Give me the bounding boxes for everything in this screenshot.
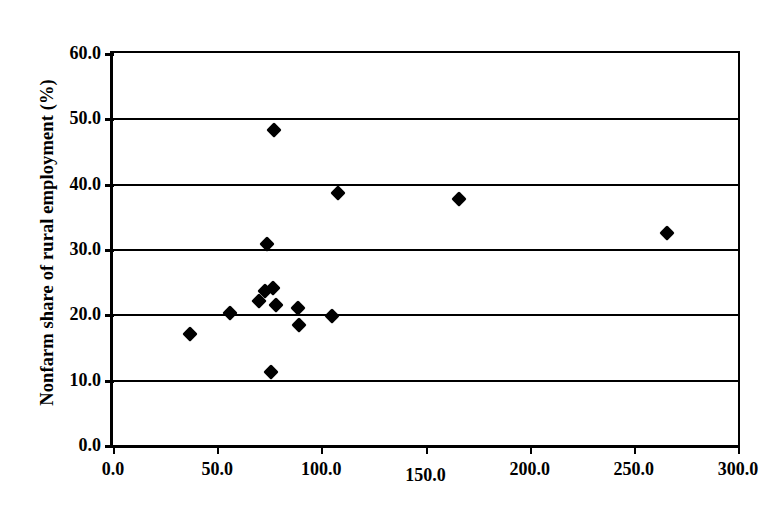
y-axis-tick-20.0 xyxy=(105,314,114,317)
y-axis-tick-60.0 xyxy=(105,53,114,56)
x-axis-tick-label: 0.0 xyxy=(102,459,125,480)
data-point xyxy=(267,122,283,138)
data-point xyxy=(324,308,340,324)
plot-area: 0.010.020.030.040.050.060.00.050.0100.01… xyxy=(110,51,740,448)
gridline-y-40 xyxy=(113,184,738,186)
data-point xyxy=(659,226,675,242)
x-axis-tick-250.0 xyxy=(634,445,636,454)
x-axis-tick-50.0 xyxy=(217,445,219,454)
scatter-chart-figure: Nonfarm share of rural employment (%) 0.… xyxy=(0,0,775,508)
y-axis-tick-label: 0.0 xyxy=(79,435,102,456)
y-axis-title: Nonfarm share of rural employment (%) xyxy=(37,28,58,458)
data-point xyxy=(182,326,198,342)
y-axis-tick-label: 10.0 xyxy=(70,369,102,390)
y-axis-tick-label: 60.0 xyxy=(70,43,102,64)
x-axis-tick-0.0 xyxy=(113,445,115,454)
x-axis-tick-300.0 xyxy=(738,445,740,454)
gridline-y-50 xyxy=(113,118,738,120)
x-axis-tick-100.0 xyxy=(321,445,323,454)
gridline-y-30 xyxy=(113,249,738,251)
x-axis-tick-label: 250.0 xyxy=(614,459,655,480)
y-axis-tick-10.0 xyxy=(105,380,114,383)
x-axis-tick-label: 300.0 xyxy=(718,459,759,480)
y-axis-tick-label: 30.0 xyxy=(70,239,102,260)
x-axis-tick-150.0 xyxy=(426,445,428,454)
x-axis-tick-label: 200.0 xyxy=(509,459,550,480)
y-axis-tick-label: 20.0 xyxy=(70,304,102,325)
y-axis-tick-30.0 xyxy=(105,249,114,252)
data-point xyxy=(451,191,467,207)
x-axis-tick-label: 150.0 xyxy=(405,465,446,486)
x-axis-tick-label: 100.0 xyxy=(301,459,342,480)
gridline-y-10 xyxy=(113,380,738,382)
x-axis-tick-200.0 xyxy=(530,445,532,454)
data-point xyxy=(330,185,346,201)
data-point xyxy=(268,297,284,313)
gridline-y-20 xyxy=(113,314,738,316)
y-axis-tick-label: 50.0 xyxy=(70,108,102,129)
data-point xyxy=(264,365,280,381)
data-point xyxy=(292,318,308,334)
data-point xyxy=(222,305,238,321)
x-axis-tick-label: 50.0 xyxy=(201,459,233,480)
y-axis-tick-40.0 xyxy=(105,184,114,187)
y-axis-tick-50.0 xyxy=(105,118,114,121)
y-axis-tick-label: 40.0 xyxy=(70,173,102,194)
data-point xyxy=(291,300,307,316)
